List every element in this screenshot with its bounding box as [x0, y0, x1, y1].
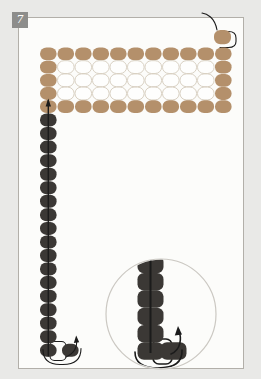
bead-diagram [0, 0, 261, 379]
band-accent-bead [198, 48, 215, 61]
band-white-bead [198, 74, 215, 87]
band-accent-bead [215, 61, 232, 74]
band-accent-bead [40, 61, 57, 74]
band-accent-bead [58, 48, 75, 61]
band-accent-bead [93, 48, 110, 61]
band-white-bead [93, 61, 110, 74]
band-accent-bead [163, 48, 180, 61]
band-white-bead [145, 87, 162, 100]
band-accent-bead [40, 74, 57, 87]
bottom-arrow-up-icon [74, 336, 79, 343]
band-white-bead [128, 87, 145, 100]
band-accent-bead [215, 74, 232, 87]
band-accent-bead [128, 100, 145, 113]
band-accent-bead [128, 48, 145, 61]
band-white-bead [163, 61, 180, 74]
band-accent-bead [75, 100, 92, 113]
band-white-bead [145, 61, 162, 74]
band-white-bead [110, 74, 127, 87]
band-accent-bead [180, 48, 197, 61]
band-white-bead [93, 74, 110, 87]
band-white-bead [58, 61, 75, 74]
band-white-bead [110, 61, 127, 74]
band-accent-bead [198, 100, 215, 113]
band-white-bead [75, 61, 92, 74]
band-accent-bead [75, 48, 92, 61]
band-accent-bead [40, 87, 57, 100]
band-white-bead [198, 87, 215, 100]
band-white-bead [128, 74, 145, 87]
band-accent-bead [215, 100, 232, 113]
band-white-bead [110, 87, 127, 100]
band-white-bead [58, 74, 75, 87]
band-white-bead [163, 87, 180, 100]
band-white-bead [93, 87, 110, 100]
band-white-bead [58, 87, 75, 100]
band-accent-bead [110, 48, 127, 61]
band-accent-bead [215, 48, 232, 61]
band-accent-bead [40, 48, 57, 61]
band-accent-bead [163, 100, 180, 113]
band-accent-bead [58, 100, 75, 113]
band-accent-bead [145, 100, 162, 113]
band-accent-bead [215, 87, 232, 100]
figure-step-7: 7 [0, 0, 261, 379]
band-white-bead [163, 74, 180, 87]
band-white-bead [198, 61, 215, 74]
band-white-bead [75, 74, 92, 87]
band-white-bead [180, 61, 197, 74]
band-white-bead [145, 74, 162, 87]
start-bead [214, 30, 231, 44]
band-accent-bead [93, 100, 110, 113]
start-thread-tail [202, 13, 217, 30]
band-accent-bead [180, 100, 197, 113]
band-white-bead [128, 61, 145, 74]
band-white-bead [75, 87, 92, 100]
band-white-bead [180, 74, 197, 87]
band-white-bead [180, 87, 197, 100]
band-accent-bead [110, 100, 127, 113]
band-accent-bead [145, 48, 162, 61]
step-number-badge: 7 [12, 12, 28, 28]
